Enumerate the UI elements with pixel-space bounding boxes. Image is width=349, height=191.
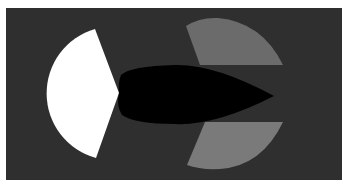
- scene-svg: [0, 0, 349, 191]
- abstract-composition: [0, 0, 349, 191]
